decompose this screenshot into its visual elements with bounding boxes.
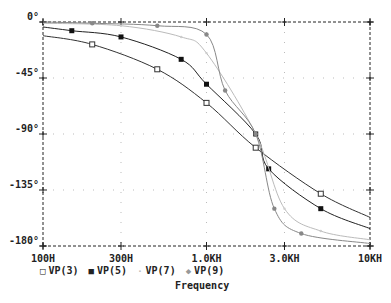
svg-text:0°: 0° bbox=[27, 11, 39, 22]
diamond-icon: ◆ bbox=[186, 266, 191, 276]
phase-plot: 100H300H1.0KH3.0KH10KH0°-45°-90°-135°-18… bbox=[0, 0, 391, 303]
svg-text:300H: 300H bbox=[109, 253, 133, 264]
x-axis-label: Frequency bbox=[175, 280, 229, 291]
svg-text:100H: 100H bbox=[31, 253, 55, 264]
svg-text:1.0KH: 1.0KH bbox=[191, 253, 221, 264]
legend-label: VP(3) bbox=[48, 265, 78, 276]
legend-item-vp9: ◆VP(9) bbox=[186, 265, 225, 276]
grid bbox=[43, 22, 370, 246]
svg-text:-135°: -135° bbox=[9, 179, 39, 190]
legend: □VP(3) ■VP(5) ·VP(7) ◆VP(9) bbox=[40, 265, 228, 276]
open-square-icon: □ bbox=[40, 266, 45, 276]
svg-text:10KH: 10KH bbox=[358, 253, 382, 264]
legend-item-vp3: □VP(3) bbox=[40, 265, 79, 276]
legend-item-vp5: ■VP(5) bbox=[89, 265, 128, 276]
svg-text:3.0KH: 3.0KH bbox=[269, 253, 299, 264]
svg-text:-90°: -90° bbox=[15, 123, 39, 134]
legend-label: VP(9) bbox=[194, 265, 224, 276]
legend-item-vp7: ·VP(7) bbox=[137, 265, 176, 276]
filled-square-icon: ■ bbox=[89, 266, 94, 276]
legend-label: VP(5) bbox=[97, 265, 127, 276]
dot-icon: · bbox=[137, 266, 142, 276]
svg-text:-45°: -45° bbox=[15, 67, 39, 78]
legend-label: VP(7) bbox=[146, 265, 176, 276]
tick-labels: 100H300H1.0KH3.0KH10KH0°-45°-90°-135°-18… bbox=[9, 11, 382, 264]
svg-text:-180°: -180° bbox=[9, 235, 39, 246]
